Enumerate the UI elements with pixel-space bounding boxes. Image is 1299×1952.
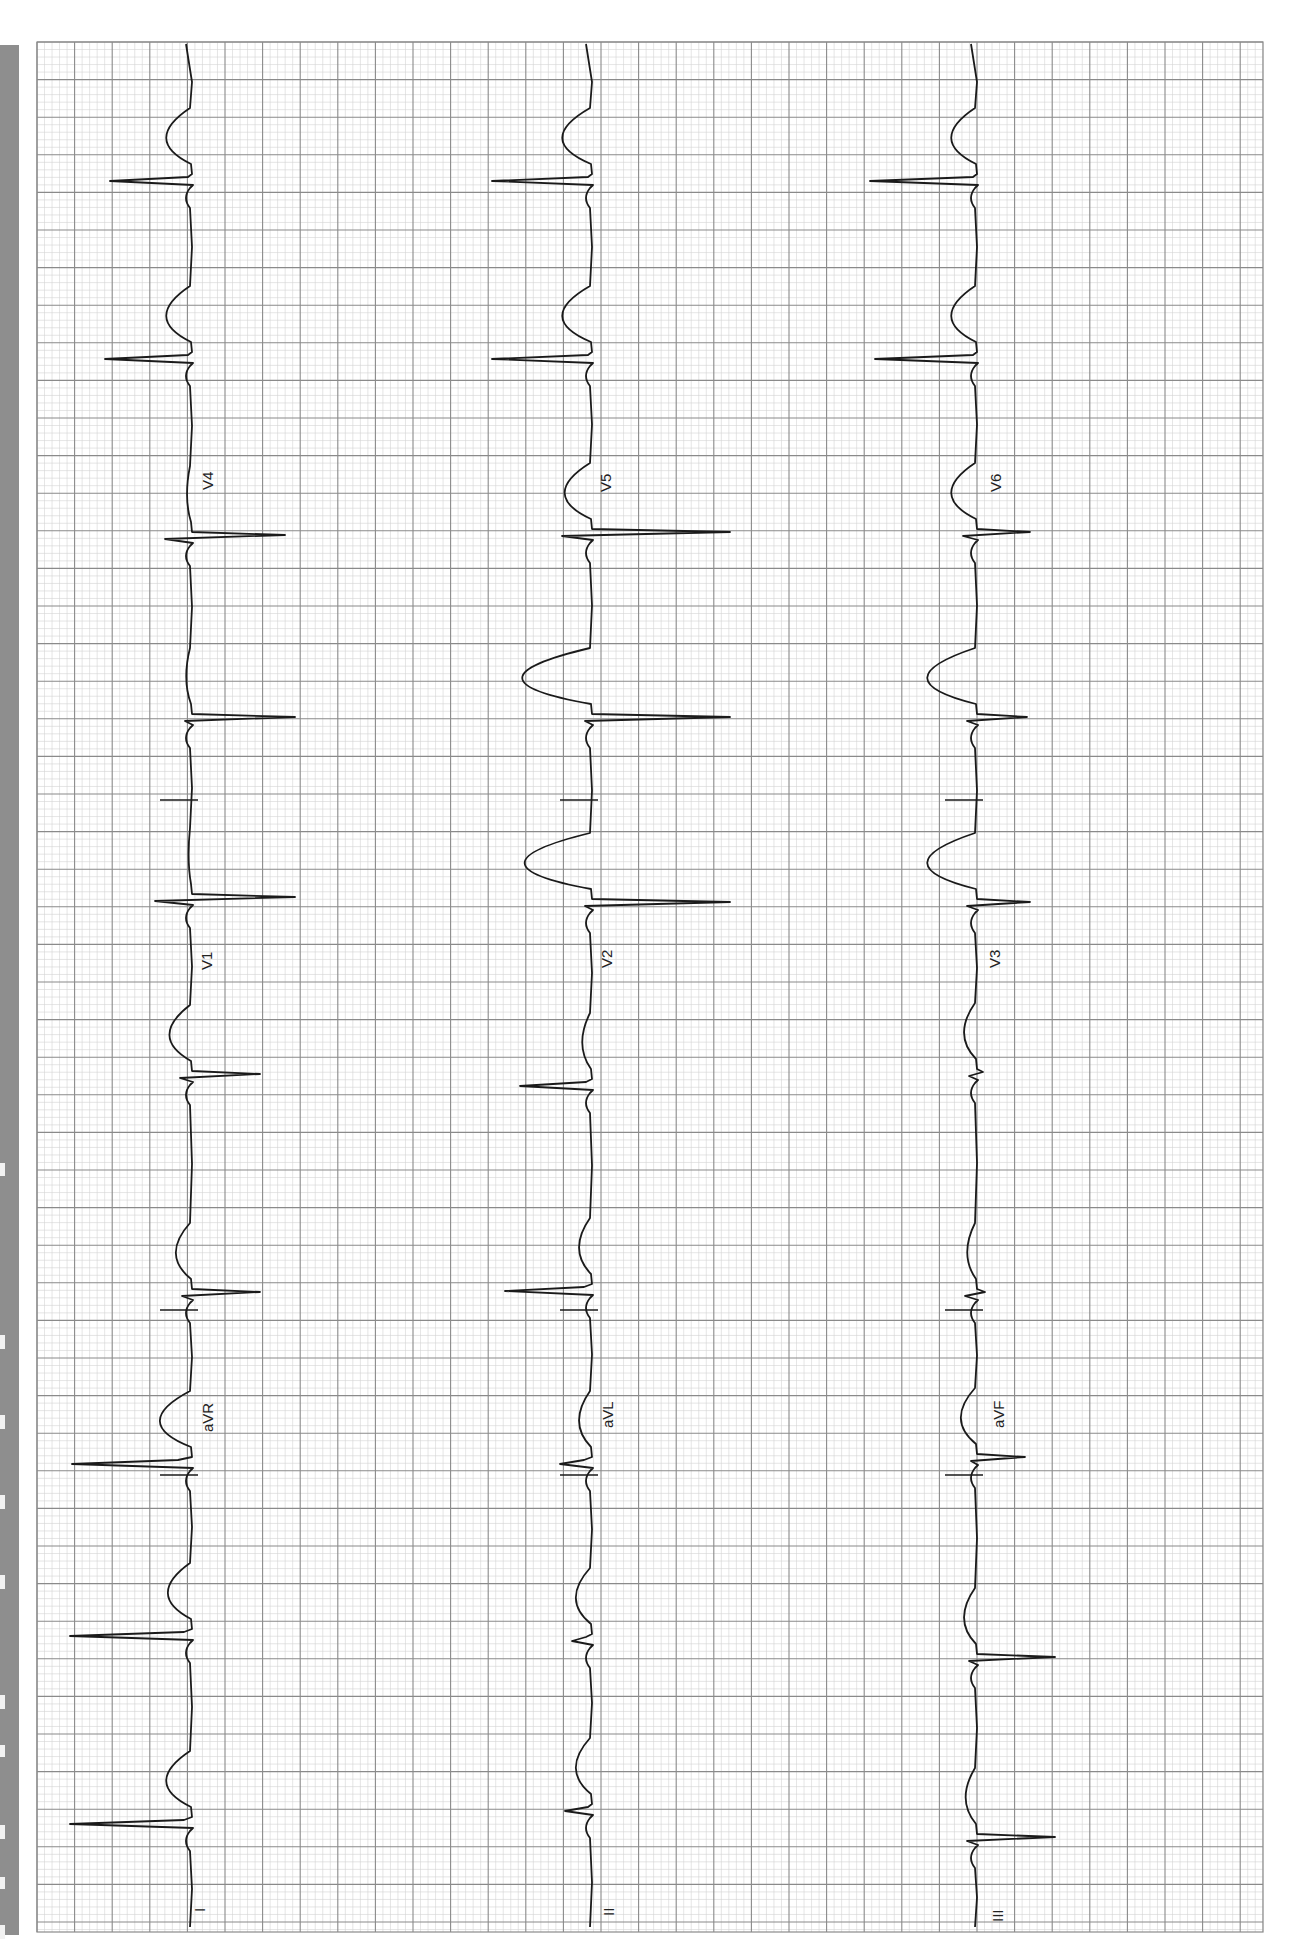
lead-label-II: II bbox=[600, 1908, 617, 1916]
lead-label-I: I bbox=[191, 1908, 208, 1912]
lead-label-V4: V4 bbox=[199, 472, 216, 490]
lead-label-V5: V5 bbox=[597, 474, 614, 492]
lead-label-aVL: aVL bbox=[599, 1401, 616, 1428]
lead-label-V2: V2 bbox=[598, 950, 615, 968]
ecg-trace-row-3 bbox=[870, 44, 1055, 1927]
lead-label-V3: V3 bbox=[986, 950, 1003, 968]
grid-border bbox=[37, 42, 1263, 1932]
ecg-trace-row-2 bbox=[492, 44, 730, 1927]
lead-label-V6: V6 bbox=[987, 474, 1004, 492]
grid-major-lines bbox=[37, 42, 1263, 1932]
ecg-trace-row-1 bbox=[70, 44, 295, 1927]
lead-label-V1: V1 bbox=[198, 952, 215, 970]
lead-labels: I aVR V1 V4 II aVL V2 V5 III aVF V3 V6 bbox=[191, 472, 1007, 1922]
lead-label-III: III bbox=[989, 1909, 1006, 1922]
grid-minor-lines bbox=[37, 42, 1263, 1932]
lead-label-aVF: aVF bbox=[990, 1400, 1007, 1428]
ecg-chart: I aVR V1 V4 II aVL V2 V5 III aVF V3 V6 bbox=[0, 0, 1299, 1952]
lead-label-aVR: aVR bbox=[199, 1403, 216, 1432]
